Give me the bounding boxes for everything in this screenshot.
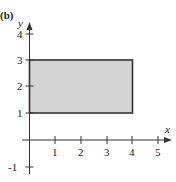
y-tick-label: 1	[17, 107, 23, 119]
part-label: (b)	[0, 9, 14, 22]
y-tick-label: 3	[17, 54, 23, 66]
graph-figure: (b) x y 1 2 3 4 5 -1 1 2 3 4	[0, 0, 176, 182]
x-tick-label: 2	[78, 146, 84, 158]
x-tick-label: 5	[155, 146, 161, 158]
x-axis-arrow-icon	[164, 137, 172, 143]
y-tick-label: 4	[17, 28, 23, 40]
x-axis-label: x	[164, 123, 170, 135]
y-tick-label: -1	[8, 161, 17, 173]
y-axis-arrow-icon	[27, 22, 33, 30]
y-tick-label: 2	[17, 80, 23, 92]
x-tick-label: 3	[104, 146, 110, 158]
x-tick-label: 4	[129, 146, 135, 158]
x-tick-label: 1	[52, 146, 58, 158]
shaded-region	[30, 60, 133, 113]
